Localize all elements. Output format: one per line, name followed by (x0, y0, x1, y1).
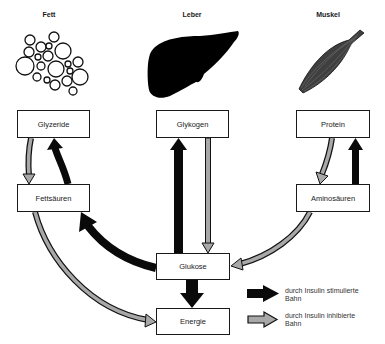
legend-stimulated-label: durch Insulin stimulierte Bahn (285, 287, 370, 303)
legend-inhibited-arrow-icon (248, 312, 277, 327)
arrow-glyzeride-fettsaeuren (23, 138, 35, 184)
legend-inhibited-label: durch Insulin inhibierte Bahn (285, 312, 370, 328)
node-glukose-label: Glukose (179, 262, 207, 271)
node-protein-label: Protein (321, 120, 345, 129)
node-aminosaeuren: Aminosäuren (296, 184, 370, 212)
arrow-aminosaeuren-glukose (231, 212, 310, 270)
arrow-protein-aminosaeuren (316, 138, 332, 184)
legend-stimulated-arrow-icon (247, 285, 279, 302)
arrow-glukose-glykogen (170, 138, 187, 253)
node-fettsaeuren-label: Fettsäuren (36, 194, 72, 203)
node-fettsaeuren: Fettsäuren (17, 184, 90, 212)
arrow-fettsaeuren-glyzeride (47, 138, 68, 184)
node-glykogen-label: Glykogen (177, 120, 209, 129)
node-protein: Protein (296, 110, 370, 138)
node-energie: Energie (156, 308, 230, 335)
node-aminosaeuren-label: Aminosäuren (311, 194, 355, 203)
node-glyzeride: Glyzeride (17, 110, 90, 138)
node-energie-label: Energie (180, 317, 206, 326)
node-glukose: Glukose (156, 253, 230, 280)
arrow-aminosaeuren-protein (348, 138, 363, 184)
node-glyzeride-label: Glyzeride (38, 120, 70, 129)
arrow-glukose-fettsaeuren (79, 212, 156, 268)
arrow-glykogen-glukose (202, 138, 214, 253)
node-glykogen: Glykogen (156, 110, 229, 138)
arrow-glukose-energie (180, 280, 204, 308)
